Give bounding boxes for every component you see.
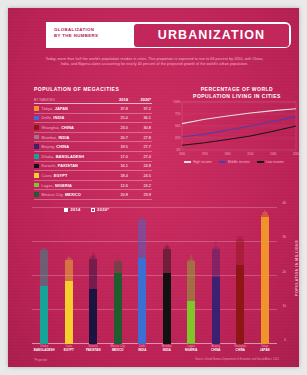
tower-crown <box>238 236 243 239</box>
table-cell-city: Dhaka, BANGLADESH <box>42 154 85 159</box>
table-row: Mexico City, MEXICO20.823.9 <box>34 190 152 200</box>
table-cell-city: Cairo, EGYPT <box>42 173 68 178</box>
table-row: Shanghai, CHINA23.030.8 <box>34 123 152 133</box>
line-chart-x-tick-label: 2050 <box>293 152 299 156</box>
page-title: URBANIZATION <box>158 28 265 42</box>
table-cell-2014: 20.7 <box>120 135 128 140</box>
tower-segment-2030 <box>89 259 97 289</box>
table-cell-2014: 23.0 <box>120 125 128 130</box>
tower-crown <box>189 259 194 262</box>
infographic-poster: GLOBALIZATION BY THE NUMBERS URBANIZATIO… <box>8 8 299 367</box>
table-cell-2014: 16.1 <box>120 163 128 168</box>
tower-crown <box>66 258 71 261</box>
table-cell-2014: 20.8 <box>120 192 128 197</box>
line-chart-x-tick-label: 1950 <box>179 152 186 156</box>
line-chart-y-tick-label: 100% <box>173 100 181 104</box>
tower-segment-2014 <box>212 277 220 344</box>
tower-crown <box>262 212 267 215</box>
table-cell-2030: 27.4 <box>143 154 151 159</box>
line-legend-label: Middle income <box>228 160 250 164</box>
table-row: Beijing, CHINA19.527.7 <box>34 142 152 152</box>
tower-segment-2014 <box>163 273 171 344</box>
tower-segment-2014 <box>40 286 48 344</box>
bar-city-label: LagosNIGERIA <box>179 345 204 352</box>
bar-city-label: Mexico CityMEXICO <box>106 345 131 352</box>
megacities-table: BY RANKING 2014 2030* Tokyo, JAPAN37.837… <box>34 96 152 200</box>
bar-column <box>106 201 131 344</box>
poster-header: GLOBALIZATION BY THE NUMBERS URBANIZATIO… <box>8 22 299 48</box>
table-row: Delhi, INDIA25.036.1 <box>34 114 152 124</box>
line-chart-x-tick-label: 1970 <box>202 152 209 156</box>
bar-city-country: INDIA <box>155 349 180 353</box>
megacities-bar-chart: 010203040 <box>32 201 277 344</box>
tower-bar <box>163 249 171 344</box>
table-cell-2014: 17.0 <box>120 154 128 159</box>
bar-column <box>57 201 82 344</box>
table-row: Lagos, NIGERIA12.624.2 <box>34 181 152 191</box>
line-legend-item: High income <box>184 160 212 164</box>
city-color-swatch <box>34 154 39 159</box>
table-cell-city: Mexico City, MEXICO <box>42 192 81 197</box>
bar-city-country: BANGLADESH <box>32 349 57 353</box>
tower-bar <box>236 239 244 344</box>
bar-group <box>32 201 277 344</box>
bar-city-label: MumbaiINDIA <box>155 345 180 352</box>
footnote-left-text: Projected <box>35 358 47 362</box>
tower-segment-2030 <box>40 250 48 286</box>
linechart-section-title: PERCENTAGE OF WORLD POPULATION LIVING IN… <box>173 86 299 100</box>
table-cell-2014: 25.0 <box>120 115 128 120</box>
city-color-swatch <box>34 164 39 169</box>
tower-segment-2014 <box>187 301 195 344</box>
bar-chart-y-tick-label: 20 <box>282 270 286 274</box>
city-color-swatch <box>34 106 39 111</box>
city-color-swatch <box>34 173 39 178</box>
table-cell-2030: 24.2 <box>143 183 151 188</box>
urban-population-line-chart: 0%25%50%75%100%195019701990201020302050 <box>168 99 299 159</box>
table-cell-city: Karachi, PAKISTAN <box>42 163 78 168</box>
table-cell-2014: 37.8 <box>120 106 128 111</box>
tower-bar <box>212 249 220 344</box>
line-chart-y-tick-label: 25% <box>175 136 181 140</box>
city-color-swatch <box>34 144 39 149</box>
bar-column <box>32 201 57 344</box>
table-cell-city: Beijing, CHINA <box>42 144 70 149</box>
table-header-2030: 2030* <box>141 97 151 102</box>
bar-city-country: CHINA <box>204 349 229 353</box>
table-row: Dhaka, BANGLADESH17.027.4 <box>34 152 152 162</box>
tower-crown <box>115 260 120 263</box>
tower-bar <box>65 260 73 344</box>
line-chart-x-tick-label: 2030 <box>270 152 277 156</box>
tower-segment-2014 <box>138 258 146 344</box>
bar-city-country: MEXICO <box>106 349 131 353</box>
table-cell-2030: 27.8 <box>143 135 151 140</box>
bar-column <box>155 201 180 344</box>
bar-column <box>179 201 204 344</box>
tower-segment-2030 <box>138 220 146 258</box>
intro-paragraph: Today, more than half the world's popula… <box>42 57 267 67</box>
line-legend-swatch <box>184 161 191 163</box>
line-series-low-income <box>182 126 296 145</box>
table-row: Cairo, EGYPT18.424.5 <box>34 171 152 181</box>
bar-city-country: INDIA <box>130 349 155 353</box>
line-legend-item: Low income <box>257 160 284 164</box>
tower-segment-2014 <box>114 273 122 344</box>
footnote-left: *Projected <box>34 358 47 362</box>
bar-column <box>130 201 155 344</box>
table-cell-city: Tokyo, JAPAN <box>42 106 68 111</box>
table-cell-2030: 24.5 <box>143 173 151 178</box>
line-legend-item: Middle income <box>219 160 250 164</box>
tower-segment-2014 <box>236 265 244 344</box>
line-series-high-income <box>182 109 296 124</box>
table-cell-2030: 23.9 <box>143 192 151 197</box>
table-cell-city: Shanghai, CHINA <box>42 125 74 130</box>
tower-segment-2014 <box>261 217 269 344</box>
bar-chart-y-tick-label: 40 <box>282 201 286 205</box>
table-row: Mumbai, INDIA20.727.8 <box>34 133 152 143</box>
line-legend-swatch <box>219 161 226 163</box>
line-legend-label: Low income <box>266 160 284 164</box>
bar-column <box>228 201 253 344</box>
bar-city-country: NIGERIA <box>179 349 204 353</box>
table-row: Tokyo, JAPAN37.837.2 <box>34 104 152 114</box>
table-cell-2014: 18.4 <box>120 173 128 178</box>
brand-lockup: GLOBALIZATION BY THE NUMBERS <box>54 27 128 39</box>
